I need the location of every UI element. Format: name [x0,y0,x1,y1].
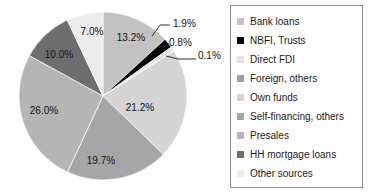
slice-label-presales: 26.0% [30,105,58,116]
legend-swatch-icon [237,151,244,158]
callout-label-nbfi: 1.9% [173,18,196,29]
slice-label-other-sources: 7.0% [81,26,104,37]
legend-item-nbfi-trusts[interactable]: NBFI, Trusts [237,31,358,50]
legend-swatch-icon [237,94,244,101]
legend-swatch-icon [237,170,244,177]
legend-item-other-sources[interactable]: Other sources [237,164,358,183]
legend-swatch-icon [237,132,244,139]
slice-label-self-financing: 19.7% [87,155,115,166]
pie-plot-area: 13.2% 21.2% 19.7% 26.0% 10.0% 7.0% 1.9% … [0,0,225,193]
legend-label: Other sources [250,169,313,179]
slice-label-hh-mortgage: 10.0% [45,49,73,60]
slice-label-own-funds: 21.2% [126,102,154,113]
legend-label: NBFI, Trusts [250,36,306,46]
legend-swatch-icon [237,37,244,44]
legend-item-presales[interactable]: Presales [237,126,358,145]
callout-label-foreign-others: 0.1% [198,50,221,61]
legend-label: Self-financing, others [250,112,344,122]
legend-item-foreign-others[interactable]: Foreign, others [237,69,358,88]
legend-label: Direct FDI [250,55,295,65]
slice-label-bank-loans: 13.2% [117,32,145,43]
legend-swatch-icon [237,18,244,25]
legend-box: Bank loans NBFI, Trusts Direct FDI Forei… [230,5,363,188]
legend-item-own-funds[interactable]: Own funds [237,88,358,107]
pie-chart-figure: 13.2% 21.2% 19.7% 26.0% 10.0% 7.0% 1.9% … [0,0,370,193]
legend-item-self-financing-others[interactable]: Self-financing, others [237,107,358,126]
legend-label: Foreign, others [250,74,317,84]
legend-swatch-icon [237,56,244,63]
legend-item-hh-mortgage-loans[interactable]: HH mortgage loans [237,145,358,164]
legend-label: HH mortgage loans [250,150,336,160]
legend-item-direct-fdi[interactable]: Direct FDI [237,50,358,69]
legend-item-bank-loans[interactable]: Bank loans [237,12,358,31]
legend-swatch-icon [237,75,244,82]
legend-label: Own funds [250,93,298,103]
legend-label: Bank loans [250,17,299,27]
legend-label: Presales [250,131,289,141]
callout-label-direct-fdi: 0.8% [169,37,192,48]
pie-svg: 13.2% 21.2% 19.7% 26.0% 10.0% 7.0% 1.9% … [0,0,225,193]
legend-swatch-icon [237,113,244,120]
